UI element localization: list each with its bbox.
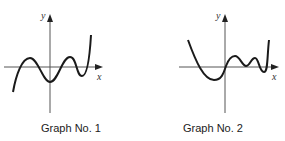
graph-2-plot: y x — [142, 0, 285, 120]
x-axis-label: x — [96, 71, 102, 82]
graph-1-caption: Graph No. 1 — [0, 122, 142, 134]
curve — [13, 35, 91, 92]
y-axis-label: y — [215, 10, 221, 21]
x-axis-arrow-icon — [95, 64, 103, 70]
curve — [188, 40, 269, 80]
x-axis-label: x — [271, 71, 277, 82]
y-axis-arrow-icon — [222, 14, 228, 22]
y-axis-label: y — [40, 10, 46, 21]
x-axis-arrow-icon — [271, 64, 279, 70]
graph-2: y x Graph No. 2 — [142, 0, 284, 141]
y-axis-arrow-icon — [47, 14, 53, 22]
graph-1-plot: y x — [0, 0, 142, 120]
graph-2-caption: Graph No. 2 — [142, 122, 284, 134]
graph-1: y x Graph No. 1 — [0, 0, 142, 141]
